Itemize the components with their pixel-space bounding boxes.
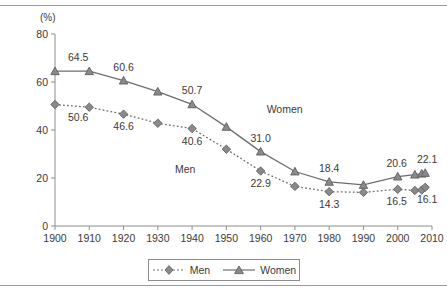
legend-entry-women[interactable]: Women	[222, 264, 296, 276]
svg-text:0: 0	[42, 220, 48, 232]
top-divider	[0, 5, 447, 6]
svg-text:20: 20	[36, 172, 48, 184]
legend-label-women: Women	[260, 264, 296, 276]
svg-text:1980: 1980	[318, 232, 342, 244]
svg-text:22.1: 22.1	[417, 153, 438, 165]
legend-entry-men[interactable]: Men	[152, 264, 210, 276]
svg-text:60: 60	[36, 76, 48, 88]
svg-text:1960: 1960	[249, 232, 273, 244]
svg-text:2000: 2000	[386, 232, 410, 244]
svg-text:46.6: 46.6	[113, 120, 134, 132]
svg-text:50.7: 50.7	[182, 84, 203, 96]
svg-text:Women: Women	[267, 103, 303, 115]
svg-text:1920: 1920	[112, 232, 136, 244]
chart-point-labels: 64.560.650.731.018.420.622.150.646.640.6…	[68, 51, 438, 209]
svg-text:1940: 1940	[180, 232, 204, 244]
svg-text:1930: 1930	[146, 232, 170, 244]
svg-text:1950: 1950	[215, 232, 239, 244]
bottom-divider	[0, 285, 447, 286]
svg-text:16.1: 16.1	[417, 193, 438, 205]
svg-text:40: 40	[36, 124, 48, 136]
svg-text:40.6: 40.6	[182, 135, 203, 147]
legend-label-men: Men	[190, 264, 210, 276]
svg-text:20.6: 20.6	[387, 157, 408, 169]
svg-text:18.4: 18.4	[319, 162, 340, 174]
line-chart: 0204060801900191019201930194019501960197…	[0, 8, 447, 256]
svg-text:2010: 2010	[420, 232, 444, 244]
legend-swatch-men-icon	[152, 264, 186, 276]
svg-text:Men: Men	[175, 163, 196, 175]
svg-text:1900: 1900	[43, 232, 67, 244]
chart-series	[51, 67, 430, 197]
svg-text:31.0: 31.0	[250, 132, 271, 144]
chart-legend: Men Women	[148, 259, 300, 281]
svg-text:14.3: 14.3	[319, 198, 340, 210]
chart-page: (%) 020406080190019101920193019401950196…	[0, 0, 447, 292]
svg-text:80: 80	[36, 28, 48, 40]
svg-text:1910: 1910	[78, 232, 102, 244]
svg-text:22.9: 22.9	[250, 177, 271, 189]
svg-text:60.6: 60.6	[113, 61, 134, 73]
svg-text:1970: 1970	[283, 232, 307, 244]
svg-text:16.5: 16.5	[387, 195, 408, 207]
svg-text:1990: 1990	[352, 232, 376, 244]
svg-text:64.5: 64.5	[68, 51, 89, 63]
chart-axes: 0204060801900191019201930194019501960197…	[36, 28, 444, 244]
legend-swatch-women-icon	[222, 264, 256, 276]
svg-text:50.6: 50.6	[68, 111, 89, 123]
chart-svg: 0204060801900191019201930194019501960197…	[0, 8, 447, 256]
